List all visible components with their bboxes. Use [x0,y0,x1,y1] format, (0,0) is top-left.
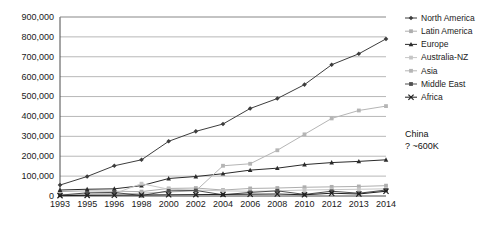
y-axis-tick-label: 600,000 [21,72,54,82]
legend-item-label: Latin America [421,26,473,36]
series-point [248,162,252,166]
series-point [140,182,144,186]
annotation-line-1: China [405,129,429,139]
plot-axes [60,17,386,196]
legend-item-australia-nz[interactable]: Australia-NZ [405,52,468,62]
legend-item-asia[interactable]: Asia [405,66,438,76]
legend-swatch-marker [409,82,413,86]
x-axis-tick-label: 2013 [349,199,369,209]
x-axis-tick-label: 2004 [213,199,233,209]
x-axis-tick-label: 2014 [376,199,396,209]
x-axis-tick-label: 2008 [267,199,287,209]
series-point [357,51,362,56]
series-point [384,37,389,42]
series-point [384,104,388,108]
series-point [221,122,226,127]
data-series-group [57,37,388,199]
series-asia [58,104,388,197]
series-point [275,96,280,101]
china-annotation: China? ~600K [405,129,439,151]
legend-item-label: Africa [421,92,443,102]
legend-item-label: Asia [421,66,438,76]
series-point [357,109,361,113]
y-axis-tick-labels: 0100,000200,000300,000400,000500,000600,… [21,12,54,201]
x-axis-tick-label: 1993 [50,199,70,209]
series-point [248,106,253,111]
y-axis-tick-label: 400,000 [21,111,54,121]
chart-legend: North AmericaLatin AmericaEuropeAustrali… [405,13,475,102]
legend-swatch-marker [409,69,413,73]
series-point [357,187,361,191]
legend-item-europe[interactable]: Europe [405,39,449,49]
chart-container: 0100,000200,000300,000400,000500,000600,… [0,0,497,229]
legend-swatch-marker [409,29,413,33]
x-axis-tick-label: 1995 [77,199,97,209]
y-axis-tick-label: 500,000 [21,91,54,101]
legend-item-label: North America [421,13,475,23]
series-point [194,189,198,193]
y-axis-tick-label: 700,000 [21,52,54,62]
legend-item-north-america[interactable]: North America [405,13,475,23]
series-point [112,163,117,168]
legend-item-label: Australia-NZ [421,52,468,62]
series-point [221,189,225,193]
y-axis-tick-label: 100,000 [21,171,54,181]
y-axis-tick-label: 800,000 [21,32,54,42]
series-point [303,188,307,192]
legend-swatch-marker [409,56,413,60]
y-axis-tick-label: 200,000 [21,151,54,161]
series-point [85,174,90,179]
series-line [60,106,386,195]
series-point [330,117,334,121]
legend-item-label: Europe [421,39,449,49]
x-axis-tick-labels: 1993199519961998200020022004200620082010… [50,199,396,209]
legend-swatch-marker [409,16,414,21]
legend-item-latin-america[interactable]: Latin America [405,26,473,36]
x-axis-tick-label: 2010 [294,199,314,209]
y-axis-tick-label: 900,000 [21,12,54,22]
line-chart: 0100,000200,000300,000400,000500,000600,… [0,0,497,229]
legend-item-middle-east[interactable]: Middle East [405,79,466,89]
x-axis-tick-label: 2002 [186,199,206,209]
x-axis-tick-label: 2000 [159,199,179,209]
plot-gridlines [60,17,386,176]
series-point [275,148,279,152]
x-axis-tick-label: 2012 [322,199,342,209]
series-point [58,183,63,188]
x-axis-tick-label: 1998 [131,199,151,209]
legend-item-africa[interactable]: Africa [405,92,443,102]
y-axis-tick-label: 300,000 [21,131,54,141]
legend-item-label: Middle East [421,79,466,89]
x-axis-tick-label: 1996 [104,199,124,209]
series-line [60,39,386,185]
annotation-line-2: ? ~600K [405,141,439,151]
series-point [167,189,171,193]
series-point [194,129,199,134]
series-point [303,132,307,136]
series-point [221,164,225,168]
x-axis-tick-label: 2006 [240,199,260,209]
